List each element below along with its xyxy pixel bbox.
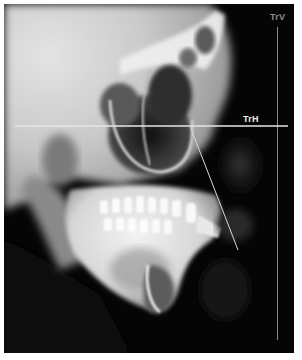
profile-diagonal-line: [190, 126, 238, 250]
trv-label: TrV: [270, 13, 285, 22]
reference-lines: [0, 0, 302, 360]
trh-label: TrH: [243, 115, 259, 124]
